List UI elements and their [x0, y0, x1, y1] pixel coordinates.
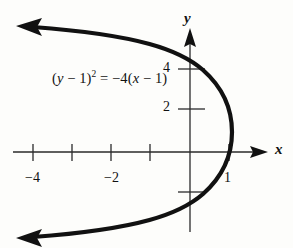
plot-canvas: [0, 0, 293, 248]
parabola-figure: y x 4 2 −4 −2 1 (y − 1)2 = −4(x − 1): [0, 0, 293, 248]
equation-equals: = −4(: [96, 70, 132, 86]
y-tick-label-2: 2: [163, 100, 170, 114]
x-axis-label: x: [275, 142, 283, 157]
equation-minus-one: − 1): [63, 70, 91, 86]
y-axis-label: y: [184, 11, 191, 26]
equation-annotation: (y − 1)2 = −4(x − 1): [52, 71, 167, 86]
parabola-curve-lower: [33, 132, 232, 237]
x-tick-label-1: 1: [224, 171, 231, 185]
equation-tail: − 1): [139, 70, 167, 86]
x-tick-label-minus-4: −4: [25, 171, 40, 185]
x-tick-label-minus-2: −2: [104, 171, 119, 185]
